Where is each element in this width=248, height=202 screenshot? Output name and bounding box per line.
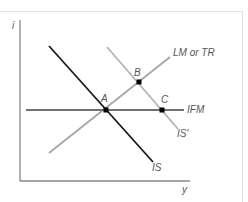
y-axis-label: i: [12, 20, 15, 31]
ifm-line-label: IFM: [187, 104, 205, 115]
point-a-label: A: [100, 93, 108, 104]
lm-curve-label: LM or TR: [173, 47, 215, 58]
x-axis-label: y: [181, 184, 188, 195]
is-curve: [49, 46, 153, 162]
point-b-marker: [137, 80, 142, 85]
point-c-marker: [160, 108, 165, 113]
is-prime-curve-label: IS′: [177, 128, 189, 139]
point-b-label: B: [134, 67, 141, 78]
point-a-marker: [104, 108, 109, 113]
lm-curve: [49, 57, 170, 153]
is-lm-ifm-diagram: i y LM or TR IFM IS′ IS A B C: [0, 0, 248, 202]
is-curve-label: IS: [152, 162, 162, 173]
point-c-label: C: [161, 94, 169, 105]
